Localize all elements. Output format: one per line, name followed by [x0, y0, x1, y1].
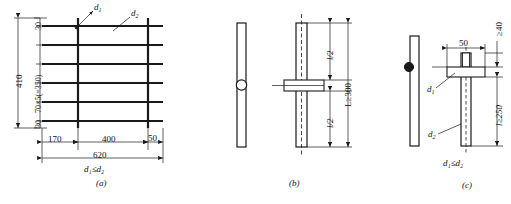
- panel-b-side-view: [236, 23, 246, 147]
- technical-drawing-figure: d1 d2 410 30 70×5(=350) 30 170 400 50 62…: [0, 0, 511, 204]
- panel-a-dim-spacing-string: 70×5(=350): [34, 75, 43, 113]
- panel-a-dim-top-spacing: 30: [34, 22, 43, 30]
- panel-a-label-d1: d1: [94, 2, 102, 12]
- panel-a-dim-overall-height: 410: [14, 75, 24, 89]
- panel-c-dim-top-clearance: ≥40: [494, 22, 504, 36]
- panel-a-label-d2: d2: [131, 8, 139, 18]
- panel-a-dim-left-overhang: 170: [48, 134, 62, 144]
- panel-a-dim-overall-width: 620: [93, 150, 107, 160]
- panel-c-front-view: [432, 47, 485, 153]
- panel-a-dim-right-overhang: 50: [148, 133, 157, 143]
- panel-a-dim-bar-spacing: 400: [102, 134, 116, 144]
- panel-a-caption: (a): [96, 178, 107, 188]
- panel-c-side-view: [404, 36, 419, 146]
- panel-b-dim-total-length: L≥300: [343, 83, 353, 107]
- panel-a-dim-bottom-spacing: 30: [34, 120, 43, 128]
- panel-b-caption: (b): [289, 178, 300, 188]
- panel-a-note: d₁≤d₂: [84, 164, 104, 174]
- panel-c-note: d₁≤d₂: [443, 158, 463, 168]
- panel-b-dim-lower-half: l/2: [325, 118, 335, 128]
- panel-b-front-view: [272, 14, 324, 157]
- panel-c-dim-plate-width: 50: [459, 38, 468, 48]
- drawing-canvas: [0, 0, 511, 204]
- panel-c-caption: (c): [462, 180, 472, 190]
- panel-b-dim-upper-half: l/2: [325, 50, 335, 60]
- panel-a-grid: [42, 18, 163, 128]
- panel-c-label-d1: d1: [427, 84, 435, 94]
- panel-c-dim-embed-length: l≥250: [494, 105, 504, 126]
- panel-a-leaders: [78, 11, 130, 31]
- panel-c-label-d2: d2: [428, 129, 436, 139]
